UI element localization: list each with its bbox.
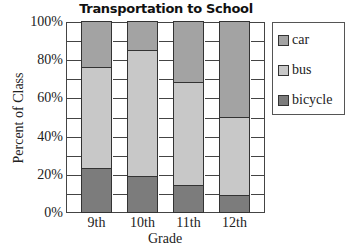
gridline [113, 175, 128, 176]
gridline [67, 137, 82, 138]
gridline [67, 60, 82, 61]
x-tick-label: 12th [215, 215, 255, 231]
bar-10th [127, 22, 158, 213]
gridline [113, 194, 128, 195]
gridline [159, 60, 174, 61]
bar-11th [173, 22, 204, 213]
legend-label: bicycle [292, 92, 332, 108]
legend-label: bus [292, 62, 311, 78]
gridline [205, 175, 220, 176]
x-tick-label: 9th [77, 215, 117, 231]
gridline [67, 156, 82, 157]
gridline [251, 41, 264, 42]
gridline [205, 98, 220, 99]
bar-segment-car [173, 21, 204, 83]
gridline [113, 60, 128, 61]
y-tick-label: 40% [37, 129, 63, 145]
legend-swatch-bus [278, 65, 289, 76]
y-tick-label: 80% [37, 52, 63, 68]
gridline [205, 60, 220, 61]
bar-segment-car [127, 21, 158, 51]
bar-segment-bicycle [81, 168, 112, 213]
gridline [205, 194, 220, 195]
x-axis-label: Grade [148, 231, 182, 247]
gridline [113, 41, 128, 42]
bar-segment-bicycle [219, 195, 250, 213]
gridline [205, 137, 220, 138]
gridline [251, 98, 264, 99]
y-tick-label: 20% [37, 167, 63, 183]
legend-swatch-car [278, 35, 289, 46]
legend-label: car [292, 32, 309, 48]
bar-segment-car [219, 21, 250, 118]
bar-segment-bus [219, 117, 250, 196]
gridline [67, 118, 82, 119]
legend-item-car: car [278, 32, 309, 48]
gridline [159, 41, 174, 42]
gridline [159, 118, 174, 119]
legend-swatch-bicycle [278, 95, 289, 106]
gridline [67, 98, 82, 99]
gridline [159, 175, 174, 176]
gridline [251, 137, 264, 138]
bar-segment-bicycle [173, 185, 204, 213]
gridline [159, 194, 174, 195]
x-tick-label: 11th [169, 215, 209, 231]
gridline [205, 118, 220, 119]
gridline [67, 79, 82, 80]
gridline [67, 194, 82, 195]
gridline [113, 118, 128, 119]
legend-item-bus: bus [278, 62, 311, 78]
bar-segment-bus [127, 50, 158, 177]
legend: car bus bicycle [272, 22, 345, 115]
gridline [205, 79, 220, 80]
bar-segment-bicycle [127, 176, 158, 213]
gridline [113, 98, 128, 99]
y-tick-label: 60% [37, 90, 63, 106]
gridline [159, 98, 174, 99]
gridline [251, 60, 264, 61]
plot-area [66, 22, 265, 213]
bar-segment-bus [81, 67, 112, 169]
gridline [251, 79, 264, 80]
gridline [251, 156, 264, 157]
bar-segment-car [81, 21, 112, 68]
gridline [251, 194, 264, 195]
gridline [159, 156, 174, 157]
gridline [205, 156, 220, 157]
gridline [205, 41, 220, 42]
gridline [113, 137, 128, 138]
gridline [251, 118, 264, 119]
x-tick-label: 10th [123, 215, 163, 231]
y-tick-label: 100% [30, 14, 63, 30]
chart-title: Transportation to School [66, 1, 266, 16]
gridline [67, 41, 82, 42]
gridline [113, 156, 128, 157]
bar-segment-bus [173, 82, 204, 186]
gridline [251, 175, 264, 176]
gridline [67, 175, 82, 176]
legend-item-bicycle: bicycle [278, 92, 332, 108]
gridline [159, 137, 174, 138]
bar-12th [219, 22, 250, 213]
gridline [113, 79, 128, 80]
gridline [159, 79, 174, 80]
bar-9th [81, 22, 112, 213]
y-axis-label: Percent of Class [11, 73, 27, 164]
y-tick-label: 0% [44, 205, 63, 221]
